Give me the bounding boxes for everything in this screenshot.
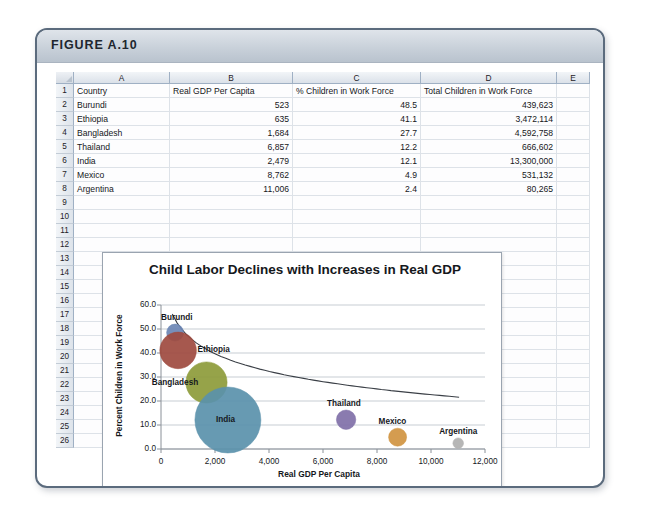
row-header-25[interactable]: 25 [56,420,74,434]
cell-empty[interactable] [557,406,590,420]
column-header-c[interactable]: C [293,72,421,84]
cell-a1[interactable]: Country [74,84,170,98]
cell-a3[interactable]: Ethiopia [74,112,170,126]
cell-empty[interactable] [557,154,590,168]
cell-empty[interactable] [170,238,293,252]
row-header-8[interactable]: 8 [56,182,74,196]
cell-empty[interactable] [421,196,557,210]
cell-empty[interactable] [293,196,421,210]
cell-c8[interactable]: 2.4 [293,182,421,196]
row-header-2[interactable]: 2 [56,98,74,112]
cell-a8[interactable]: Argentina [74,182,170,196]
cell-b8[interactable]: 11,006 [170,182,293,196]
bubble-ethiopia[interactable] [160,332,197,369]
row-header-20[interactable]: 20 [56,350,74,364]
row-header-1[interactable]: 1 [56,84,74,98]
cell-empty[interactable] [557,280,590,294]
cell-a2[interactable]: Burundi [74,98,170,112]
row-header-3[interactable]: 3 [56,112,74,126]
embedded-chart[interactable]: Child Labor Declines with Increases in R… [102,252,502,488]
row-header-26[interactable]: 26 [56,434,74,448]
cell-empty[interactable] [293,238,421,252]
column-header-e[interactable]: E [557,72,590,84]
cell-c4[interactable]: 27.7 [293,126,421,140]
cell-empty[interactable] [557,210,590,224]
cell-empty[interactable] [170,224,293,238]
cell-empty[interactable] [557,238,590,252]
row-header-17[interactable]: 17 [56,308,74,322]
row-header-13[interactable]: 13 [56,252,74,266]
cell-c6[interactable]: 12.1 [293,154,421,168]
cell-b1[interactable]: Real GDP Per Capita [170,84,293,98]
cell-d8[interactable]: 80,265 [421,182,557,196]
cell-empty[interactable] [74,224,170,238]
cell-empty[interactable] [557,126,590,140]
bubble-mexico[interactable] [389,428,407,446]
cell-empty[interactable] [557,336,590,350]
row-header-19[interactable]: 19 [56,336,74,350]
cell-d5[interactable]: 666,602 [421,140,557,154]
cell-empty[interactable] [293,210,421,224]
cell-empty[interactable] [557,112,590,126]
cell-empty[interactable] [557,84,590,98]
cell-b5[interactable]: 6,857 [170,140,293,154]
row-header-15[interactable]: 15 [56,280,74,294]
cell-empty[interactable] [421,224,557,238]
cell-b4[interactable]: 1,684 [170,126,293,140]
cell-empty[interactable] [421,210,557,224]
cell-empty[interactable] [557,364,590,378]
cell-b3[interactable]: 635 [170,112,293,126]
cell-empty[interactable] [557,434,590,448]
row-header-9[interactable]: 9 [56,196,74,210]
row-header-5[interactable]: 5 [56,140,74,154]
row-header-7[interactable]: 7 [56,168,74,182]
cell-c2[interactable]: 48.5 [293,98,421,112]
cell-empty[interactable] [557,378,590,392]
cell-empty[interactable] [557,420,590,434]
cell-empty[interactable] [421,238,557,252]
cell-d2[interactable]: 439,623 [421,98,557,112]
row-header-10[interactable]: 10 [56,210,74,224]
bubble-argentina[interactable] [453,438,464,449]
cell-c7[interactable]: 4.9 [293,168,421,182]
cell-d4[interactable]: 4,592,758 [421,126,557,140]
cell-empty[interactable] [170,196,293,210]
row-header-14[interactable]: 14 [56,266,74,280]
cell-empty[interactable] [557,392,590,406]
cell-d3[interactable]: 3,472,114 [421,112,557,126]
row-header-6[interactable]: 6 [56,154,74,168]
cell-b7[interactable]: 8,762 [170,168,293,182]
column-header-b[interactable]: B [170,72,293,84]
cell-d7[interactable]: 531,132 [421,168,557,182]
cell-b2[interactable]: 523 [170,98,293,112]
cell-empty[interactable] [557,196,590,210]
cell-a5[interactable]: Thailand [74,140,170,154]
row-header-24[interactable]: 24 [56,406,74,420]
cell-empty[interactable] [74,196,170,210]
row-header-12[interactable]: 12 [56,238,74,252]
cell-empty[interactable] [293,224,421,238]
cell-empty[interactable] [557,98,590,112]
cell-empty[interactable] [557,182,590,196]
cell-empty[interactable] [557,294,590,308]
cell-empty[interactable] [557,252,590,266]
row-header-23[interactable]: 23 [56,392,74,406]
cell-empty[interactable] [557,266,590,280]
cell-empty[interactable] [557,224,590,238]
row-header-22[interactable]: 22 [56,378,74,392]
cell-empty[interactable] [557,140,590,154]
cell-empty[interactable] [74,238,170,252]
cell-c5[interactable]: 12.2 [293,140,421,154]
cell-a4[interactable]: Bangladesh [74,126,170,140]
cell-a7[interactable]: Mexico [74,168,170,182]
select-all-corner[interactable] [56,72,74,84]
cell-b6[interactable]: 2,479 [170,154,293,168]
row-header-16[interactable]: 16 [56,294,74,308]
row-header-18[interactable]: 18 [56,322,74,336]
cell-d1[interactable]: Total Children in Work Force [421,84,557,98]
cell-empty[interactable] [557,308,590,322]
row-header-21[interactable]: 21 [56,364,74,378]
column-header-d[interactable]: D [421,72,557,84]
cell-empty[interactable] [557,350,590,364]
row-header-4[interactable]: 4 [56,126,74,140]
